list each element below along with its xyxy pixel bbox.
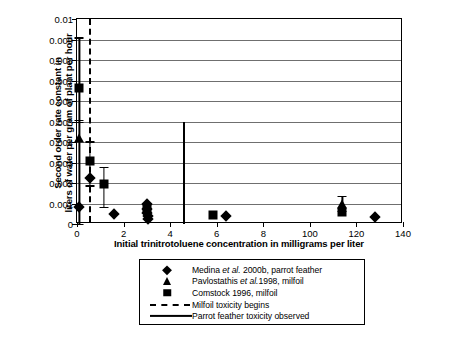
y-axis-tick-label: 0 [68,219,73,230]
legend-label: Milfoil toxicity begins [192,300,269,310]
y-axis-tick-label: 0.008 [49,55,73,66]
y-axis-tick-label: 0.009 [49,34,73,45]
error-bar-cap [75,224,84,225]
diamond-icon [162,265,171,274]
chart-figure: Second order rate constant in liters of … [0,0,466,339]
x-axis-tick [170,222,171,227]
legend-marker-diamond [150,264,192,275]
y-axis-tick-label: 0.004 [49,137,73,148]
triangle-icon [163,277,171,285]
error-bar-cap [85,185,94,186]
legend-label: Pavlostathis et al.1998, milfoil [192,276,304,286]
legend-label: Comstock 1996, milfoil [192,288,277,298]
legend-marker-triangle [150,276,192,287]
legend-label: Medina et al. 2000b, parrot feather [192,265,322,275]
gridline [77,60,401,61]
data-point-square [85,156,94,165]
error-bar-cap [338,196,347,197]
x-axis-tick [124,222,125,227]
data-point-square [338,207,347,216]
y-axis-tick-label: 0.005 [49,116,73,127]
y-axis-tick-label: 0.007 [49,75,73,86]
y-axis-tick-label: 0.003 [49,157,73,168]
square-icon [163,289,171,297]
reference-line [183,122,185,225]
chart-legend: Medina et al. 2000b, parrot featherPavlo… [139,259,365,325]
legend-marker-solid-line [150,311,192,322]
data-point-square [142,203,151,212]
legend-marker-square [150,287,192,298]
legend-marker-dashed-line [150,299,192,310]
x-axis-title: Initial trinitrotoluene concentration in… [76,238,402,249]
legend-label: Parrot feather toxicity observed [192,311,309,321]
error-bar-cap [99,207,108,208]
y-axis-tick-label: 0.006 [49,96,73,107]
error-bar [79,37,80,121]
plot-area: 00.0010.0020.0030.0040.0050.0060.0070.00… [76,18,402,223]
solid-line-icon [150,315,192,317]
y-axis-tick-label: 0.01 [55,14,74,25]
data-point-triangle [74,134,84,143]
error-bar-cap [75,122,84,123]
error-bar-cap [75,37,84,38]
gridline [77,122,401,123]
x-axis-tick [263,222,264,227]
error-bar-cap [99,167,108,168]
gridline [77,101,401,102]
gridline [77,40,401,41]
data-point-square [99,180,108,189]
gridline [77,142,401,143]
dashed-line-icon [150,304,190,306]
x-axis-tick [217,222,218,227]
legend-item: Parrot feather toxicity observed [140,310,364,322]
y-axis-tick-label: 0.002 [49,178,73,189]
data-point-square [75,83,84,92]
error-bar-cap [85,141,94,142]
gridlines [77,19,401,222]
x-axis-tick [403,222,404,227]
legend-item: Milfoil toxicity begins [140,299,364,311]
reference-line [89,19,91,222]
gridline [77,163,401,164]
legend-item: Comstock 1996, milfoil [140,287,364,299]
x-axis-tick [310,222,311,227]
x-axis-tick [356,222,357,227]
gridline [77,204,401,205]
gridline [77,81,401,82]
legend-item: Pavlostathis et al.1998, milfoil [140,276,364,288]
y-axis-tick-label: 0.001 [49,198,73,209]
gridline [77,183,401,184]
legend-item: Medina et al. 2000b, parrot feather [140,264,364,276]
data-point-square [209,211,218,220]
